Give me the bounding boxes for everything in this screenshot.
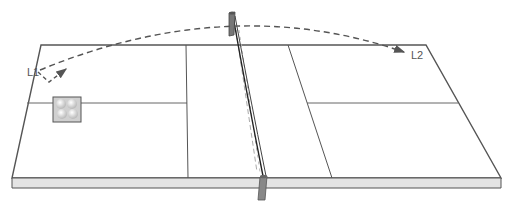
table-tennis-diagram: L1 L2	[0, 0, 514, 210]
ball-icon	[67, 99, 77, 109]
net-post-far	[229, 12, 235, 37]
ball-icon	[56, 99, 66, 109]
ball-icon	[68, 109, 78, 119]
label-start: L1	[27, 66, 39, 78]
ball-tray	[53, 97, 81, 122]
ball-icon	[57, 109, 67, 119]
label-end: L2	[411, 49, 423, 61]
table-edge	[12, 178, 501, 188]
table-top	[12, 45, 501, 178]
